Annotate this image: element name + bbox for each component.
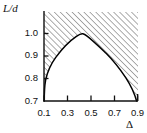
x-tick-label-5: 0.9 [128, 107, 147, 118]
x-axis-label: Δ [126, 118, 133, 130]
chart-figure: L/d 1.0 0.9 0.8 0.7 0.1 0.3 0.5 0.7 0.9 … [0, 0, 146, 133]
y-tick-label-2: 0.9 [14, 49, 38, 60]
y-tick-label-1: 1.0 [14, 27, 38, 38]
x-tick-label-3: 0.5 [81, 107, 101, 118]
y-axis-label: L/d [3, 2, 18, 14]
x-tick-label-4: 0.7 [105, 107, 125, 118]
hatched-region [44, 12, 138, 101]
x-axis-ticks [44, 96, 138, 102]
y-tick-label-3: 0.8 [14, 72, 38, 83]
y-tick-label-4: 0.7 [14, 95, 38, 106]
x-tick-label-1: 0.1 [34, 107, 54, 118]
x-tick-label-2: 0.3 [58, 107, 78, 118]
